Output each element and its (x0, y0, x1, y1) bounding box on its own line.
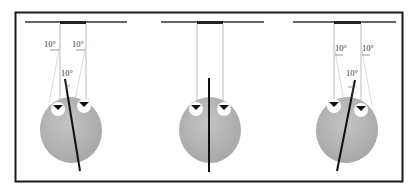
angle-guide-left (334, 45, 344, 102)
mount-block (197, 21, 223, 24)
angle-label-head: 10° (61, 68, 73, 78)
head (35, 92, 108, 168)
head-tilt-diagram: 10° 10° 10° 10° (0, 0, 418, 192)
angle-guide-right (361, 45, 372, 106)
head (311, 92, 384, 168)
panel-right: 10° 10° 10° (293, 21, 396, 171)
panel-center (161, 21, 264, 172)
angle-label-head: 10° (346, 68, 358, 78)
mount-block (60, 21, 86, 24)
angle-label-right-string: 10° (72, 39, 84, 49)
angle-guide-left (49, 45, 60, 103)
angle-label-left-string: 10° (335, 43, 347, 53)
panel-left: 10° 10° 10° (25, 21, 127, 171)
mount-block (334, 21, 361, 24)
angle-guide-right (75, 45, 86, 100)
angle-label-right-string: 10° (362, 43, 374, 53)
angle-label-left-string: 10° (44, 39, 56, 49)
